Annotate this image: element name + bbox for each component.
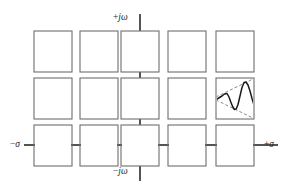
symbol-jomega: jω [118,166,127,176]
axis-label-negative-jomega: −jω [113,166,128,176]
axis-label-negative-sigma: −σ [10,139,20,149]
axis-label-positive-jomega: +jω [113,12,128,22]
growing-oscillation-waveform [216,78,255,119]
response-box[interactable] [121,31,159,72]
s-plane-figure: +jω −jω −σ +σ [0,0,292,193]
response-box[interactable] [80,31,118,72]
response-box[interactable] [168,31,206,72]
symbol-sigma: σ [269,139,274,149]
response-box[interactable] [34,78,72,119]
response-box[interactable] [168,125,206,166]
response-box-grid [34,31,254,166]
response-box[interactable] [121,78,159,119]
response-box[interactable] [216,31,254,72]
response-box[interactable] [34,125,72,166]
response-box[interactable] [80,78,118,119]
symbol-sigma: σ [15,139,20,149]
symbol-jomega: jω [118,12,127,22]
response-box[interactable] [216,125,254,166]
response-box[interactable] [34,31,72,72]
response-box[interactable] [121,125,159,166]
response-box[interactable] [168,78,206,119]
signal-trace [217,82,254,110]
response-box[interactable] [80,125,118,166]
figure-canvas [0,0,292,193]
axis-label-positive-sigma: +σ [264,139,274,149]
